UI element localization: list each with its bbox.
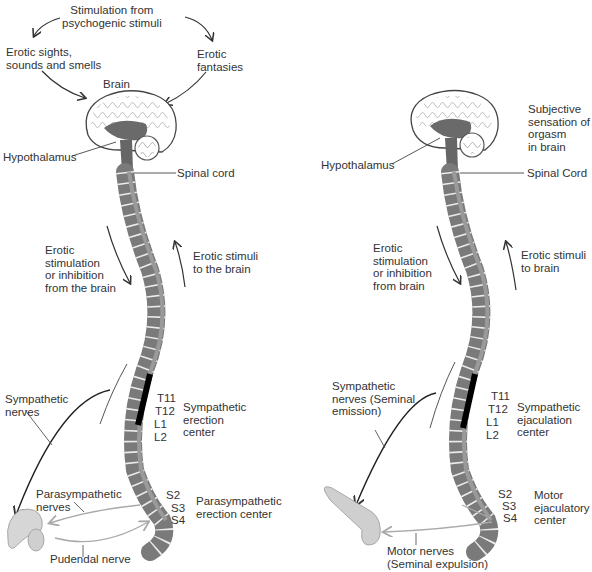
right-brain xyxy=(392,91,524,174)
pudendal-nerve-label: Pudendal nerve xyxy=(50,553,131,566)
hypothalamus-label-right: Hypothalamus xyxy=(321,159,395,172)
descending-stimulation-label-left: Erotic stimulation or inhibition from th… xyxy=(45,244,116,294)
descending-stimulation-label-right: Erotic stimulation or inhibition from br… xyxy=(373,242,432,292)
motor-nerves-seminal-expulsion-label: Motor nerves (Seminal expulsion) xyxy=(387,545,488,570)
parasympathetic-erection-center-label: Parasympathetic erection center xyxy=(196,495,282,520)
sympathetic-ejaculation-center-label: Sympathetic ejaculation center xyxy=(517,401,580,439)
spinal-cord-label-left: Spinal cord xyxy=(177,167,235,180)
orgasm-sensation-label: Subjective sensation of orgasm in brain xyxy=(528,103,590,153)
left-genitalia xyxy=(8,509,45,551)
sympathetic-nerves-seminal-emission-label: Sympathetic nerves (Seminal emission) xyxy=(332,380,415,418)
segment-t11-right: T11 xyxy=(491,390,510,403)
segment-s4-left: S4 xyxy=(171,514,185,527)
segment-s4-right: S4 xyxy=(503,512,517,525)
segment-s3-right: S3 xyxy=(502,500,516,513)
brain-label: Brain xyxy=(103,78,130,91)
erotic-sights-label: Erotic sights, sounds and smells xyxy=(6,46,101,71)
segment-l2-left: L2 xyxy=(154,431,167,444)
psychogenic-stimuli-label: Stimulation from psychogenic stimuli xyxy=(62,4,162,29)
sympathetic-nerves-label-left: Sympathetic nerves xyxy=(5,393,68,418)
right-spine xyxy=(450,172,491,552)
segment-l2-right: L2 xyxy=(486,429,499,442)
segment-t12-right: T12 xyxy=(488,403,508,416)
ascending-stimuli-label-left: Erotic stimuli to the brain xyxy=(193,250,258,275)
segment-s3-left: S3 xyxy=(171,502,185,515)
segment-t12-left: T12 xyxy=(155,405,175,418)
segment-t11-left: T11 xyxy=(157,392,176,405)
parasympathetic-nerves-label: Parasympathetic nerves xyxy=(36,488,122,513)
segment-l1-left: L1 xyxy=(154,418,167,431)
left-brain xyxy=(72,91,176,173)
ascending-stimuli-label-right: Erotic stimuli to brain xyxy=(521,249,586,274)
sympathetic-erection-center-label: Sympathetic erection center xyxy=(183,401,246,439)
segment-s2-left: S2 xyxy=(166,489,180,502)
erotic-fantasies-label: Erotic fantasies xyxy=(197,48,243,73)
spinal-cord-label-right: Spinal Cord xyxy=(527,167,587,180)
motor-ejaculatory-center-label: Motor ejaculatory center xyxy=(534,489,590,527)
right-genitalia xyxy=(324,487,380,545)
segment-s2-right: S2 xyxy=(498,488,512,501)
segment-l1-right: L1 xyxy=(486,416,499,429)
hypothalamus-label-left: Hypothalamus xyxy=(3,151,77,164)
left-spine xyxy=(125,172,166,552)
